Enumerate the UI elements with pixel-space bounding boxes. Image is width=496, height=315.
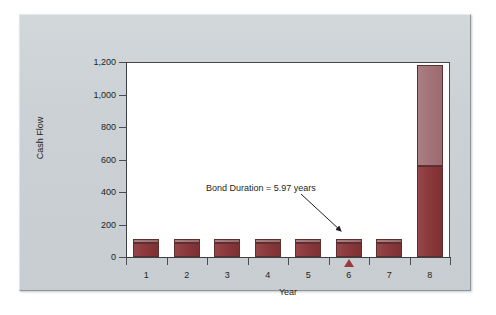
y-tick-label: 800 bbox=[42, 122, 116, 132]
y-tick-label-wrap: 800 bbox=[40, 122, 116, 132]
y-tick-label: 200 bbox=[42, 220, 116, 230]
chart-figure: Cash Flow 02004006008001,0001,200 123456… bbox=[0, 0, 496, 315]
x-tick bbox=[288, 258, 289, 265]
y-tick-label-wrap: 600 bbox=[40, 155, 116, 165]
bar-segment-lower bbox=[174, 243, 200, 257]
x-axis-title: Year bbox=[126, 287, 450, 297]
y-tick bbox=[119, 225, 126, 226]
y-tick-label: 1,000 bbox=[42, 90, 116, 100]
bar-segment-lower bbox=[255, 243, 281, 257]
bar-stack bbox=[417, 65, 443, 257]
bar-segment-lower bbox=[417, 166, 443, 257]
bar-stack bbox=[336, 239, 362, 257]
x-tick bbox=[329, 258, 330, 265]
y-tick bbox=[119, 257, 126, 258]
y-tick bbox=[119, 192, 126, 193]
duration-marker-icon bbox=[344, 259, 354, 267]
plot-area bbox=[126, 62, 450, 257]
y-tick-label-wrap: 0 bbox=[40, 252, 116, 262]
x-tick-label: 3 bbox=[209, 270, 245, 280]
bar-stack bbox=[133, 239, 159, 257]
x-tick bbox=[248, 258, 249, 265]
bar-segment-lower bbox=[214, 243, 240, 257]
y-tick-label-wrap: 1,000 bbox=[40, 90, 116, 100]
x-tick-label: 2 bbox=[169, 270, 205, 280]
x-tick bbox=[410, 258, 411, 265]
x-tick-label: 6 bbox=[331, 270, 367, 280]
x-tick bbox=[167, 258, 168, 265]
y-tick-label: 0 bbox=[42, 252, 116, 262]
x-tick bbox=[450, 258, 451, 265]
bar-segment-lower bbox=[376, 243, 402, 257]
y-tick bbox=[119, 127, 126, 128]
bar-segment-lower bbox=[336, 243, 362, 257]
chart-panel: Cash Flow 02004006008001,0001,200 123456… bbox=[19, 14, 471, 291]
y-tick bbox=[119, 95, 126, 96]
bar-stack bbox=[295, 239, 321, 257]
y-tick-label-wrap: 200 bbox=[40, 220, 116, 230]
bar-segment-lower bbox=[133, 243, 159, 257]
y-tick-label: 400 bbox=[42, 187, 116, 197]
annotation-label: Bond Duration = 5.97 years bbox=[206, 183, 316, 193]
y-tick-label: 600 bbox=[42, 155, 116, 165]
y-axis-line bbox=[126, 62, 127, 258]
x-tick-label: 7 bbox=[371, 270, 407, 280]
y-tick-label-wrap: 400 bbox=[40, 187, 116, 197]
bar-stack bbox=[214, 239, 240, 257]
x-tick bbox=[126, 258, 127, 265]
x-tick-label: 8 bbox=[412, 270, 448, 280]
x-tick bbox=[369, 258, 370, 265]
bar-stack bbox=[174, 239, 200, 257]
bar-segment-upper bbox=[417, 65, 443, 166]
y-axis-title: Cash Flow bbox=[35, 98, 45, 178]
bar-stack bbox=[255, 239, 281, 257]
y-tick-label-wrap: 1,200 bbox=[40, 57, 116, 67]
bar-stack bbox=[376, 239, 402, 257]
x-tick-label: 4 bbox=[250, 270, 286, 280]
x-tick-label: 5 bbox=[290, 270, 326, 280]
x-tick-label: 1 bbox=[128, 270, 164, 280]
bar-segment-lower bbox=[295, 243, 321, 257]
y-tick bbox=[119, 160, 126, 161]
y-tick-label: 1,200 bbox=[42, 57, 116, 67]
y-tick bbox=[119, 62, 126, 63]
x-tick bbox=[207, 258, 208, 265]
